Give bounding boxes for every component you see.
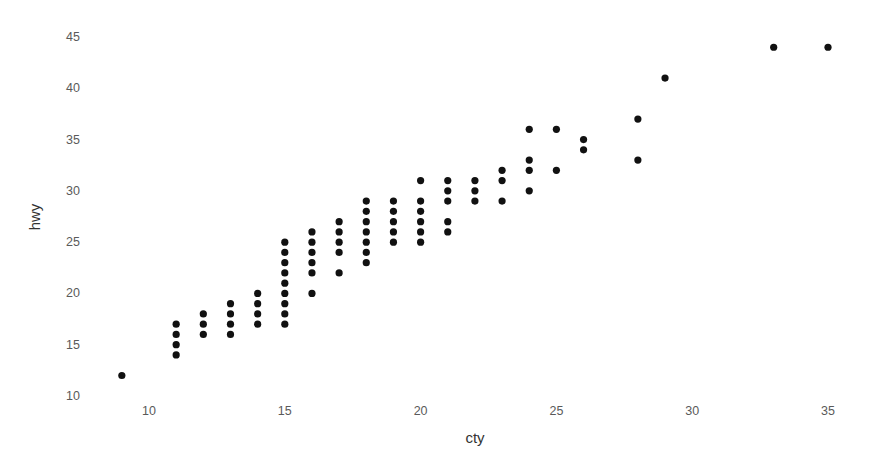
y-tick-label: 40: [66, 81, 80, 95]
x-tick-label: 10: [142, 404, 156, 418]
y-tick-label: 30: [66, 184, 80, 198]
data-point: [281, 269, 288, 276]
data-point: [363, 259, 370, 266]
data-point: [444, 177, 451, 184]
data-point: [444, 187, 451, 194]
data-point: [363, 218, 370, 225]
data-point: [363, 239, 370, 246]
y-axis-tick-labels: 1015202530354045: [66, 30, 80, 403]
data-point: [281, 239, 288, 246]
data-point: [390, 198, 397, 205]
data-point: [526, 167, 533, 174]
data-point: [281, 259, 288, 266]
x-axis-tick-labels: 101520253035: [142, 404, 835, 418]
data-point: [200, 321, 207, 328]
data-point: [661, 74, 668, 81]
data-point: [227, 321, 234, 328]
x-tick-label: 35: [821, 404, 835, 418]
data-point: [580, 136, 587, 143]
data-points: [118, 44, 831, 379]
data-point: [417, 228, 424, 235]
data-point: [173, 351, 180, 358]
data-point: [471, 187, 478, 194]
data-point: [417, 198, 424, 205]
data-point: [308, 249, 315, 256]
data-point: [417, 208, 424, 215]
data-point: [770, 44, 777, 51]
data-point: [281, 290, 288, 297]
data-point: [254, 310, 261, 317]
x-tick-label: 30: [685, 404, 699, 418]
x-axis-title: cty: [465, 429, 485, 446]
data-point: [444, 228, 451, 235]
data-point: [526, 187, 533, 194]
scatter-chart: 1015202530354045 101520253035 cty hwy: [0, 0, 880, 470]
x-tick-label: 15: [278, 404, 292, 418]
x-tick-label: 20: [414, 404, 428, 418]
data-point: [498, 198, 505, 205]
data-point: [200, 331, 207, 338]
data-point: [417, 239, 424, 246]
data-point: [390, 218, 397, 225]
data-point: [553, 167, 560, 174]
data-point: [526, 156, 533, 163]
data-point: [281, 280, 288, 287]
data-point: [173, 331, 180, 338]
y-tick-label: 45: [66, 30, 80, 44]
data-point: [200, 310, 207, 317]
data-point: [444, 198, 451, 205]
data-point: [308, 269, 315, 276]
data-point: [308, 239, 315, 246]
data-point: [227, 300, 234, 307]
data-point: [336, 249, 343, 256]
data-point: [173, 321, 180, 328]
data-point: [227, 310, 234, 317]
data-point: [363, 208, 370, 215]
data-point: [390, 208, 397, 215]
data-point: [336, 228, 343, 235]
data-point: [634, 115, 641, 122]
y-axis-title: hwy: [26, 203, 43, 230]
data-point: [498, 167, 505, 174]
data-point: [281, 249, 288, 256]
y-tick-label: 25: [66, 235, 80, 249]
data-point: [254, 321, 261, 328]
data-point: [363, 249, 370, 256]
data-point: [281, 310, 288, 317]
y-tick-label: 15: [66, 338, 80, 352]
data-point: [417, 218, 424, 225]
data-point: [308, 228, 315, 235]
x-tick-label: 25: [549, 404, 563, 418]
data-point: [254, 290, 261, 297]
data-point: [444, 218, 451, 225]
data-point: [580, 146, 587, 153]
data-point: [498, 177, 505, 184]
data-point: [281, 300, 288, 307]
data-point: [471, 177, 478, 184]
y-tick-label: 35: [66, 133, 80, 147]
data-point: [281, 321, 288, 328]
data-point: [336, 239, 343, 246]
data-point: [824, 44, 831, 51]
data-point: [363, 228, 370, 235]
data-point: [526, 126, 533, 133]
data-point: [227, 331, 234, 338]
data-point: [173, 341, 180, 348]
data-point: [308, 290, 315, 297]
y-tick-label: 20: [66, 286, 80, 300]
y-tick-label: 10: [66, 389, 80, 403]
data-point: [308, 259, 315, 266]
data-point: [390, 239, 397, 246]
data-point: [118, 372, 125, 379]
data-point: [471, 198, 478, 205]
data-point: [254, 300, 261, 307]
data-point: [336, 218, 343, 225]
data-point: [336, 269, 343, 276]
data-point: [417, 177, 424, 184]
data-point: [634, 156, 641, 163]
data-point: [363, 198, 370, 205]
data-point: [390, 228, 397, 235]
data-point: [553, 126, 560, 133]
